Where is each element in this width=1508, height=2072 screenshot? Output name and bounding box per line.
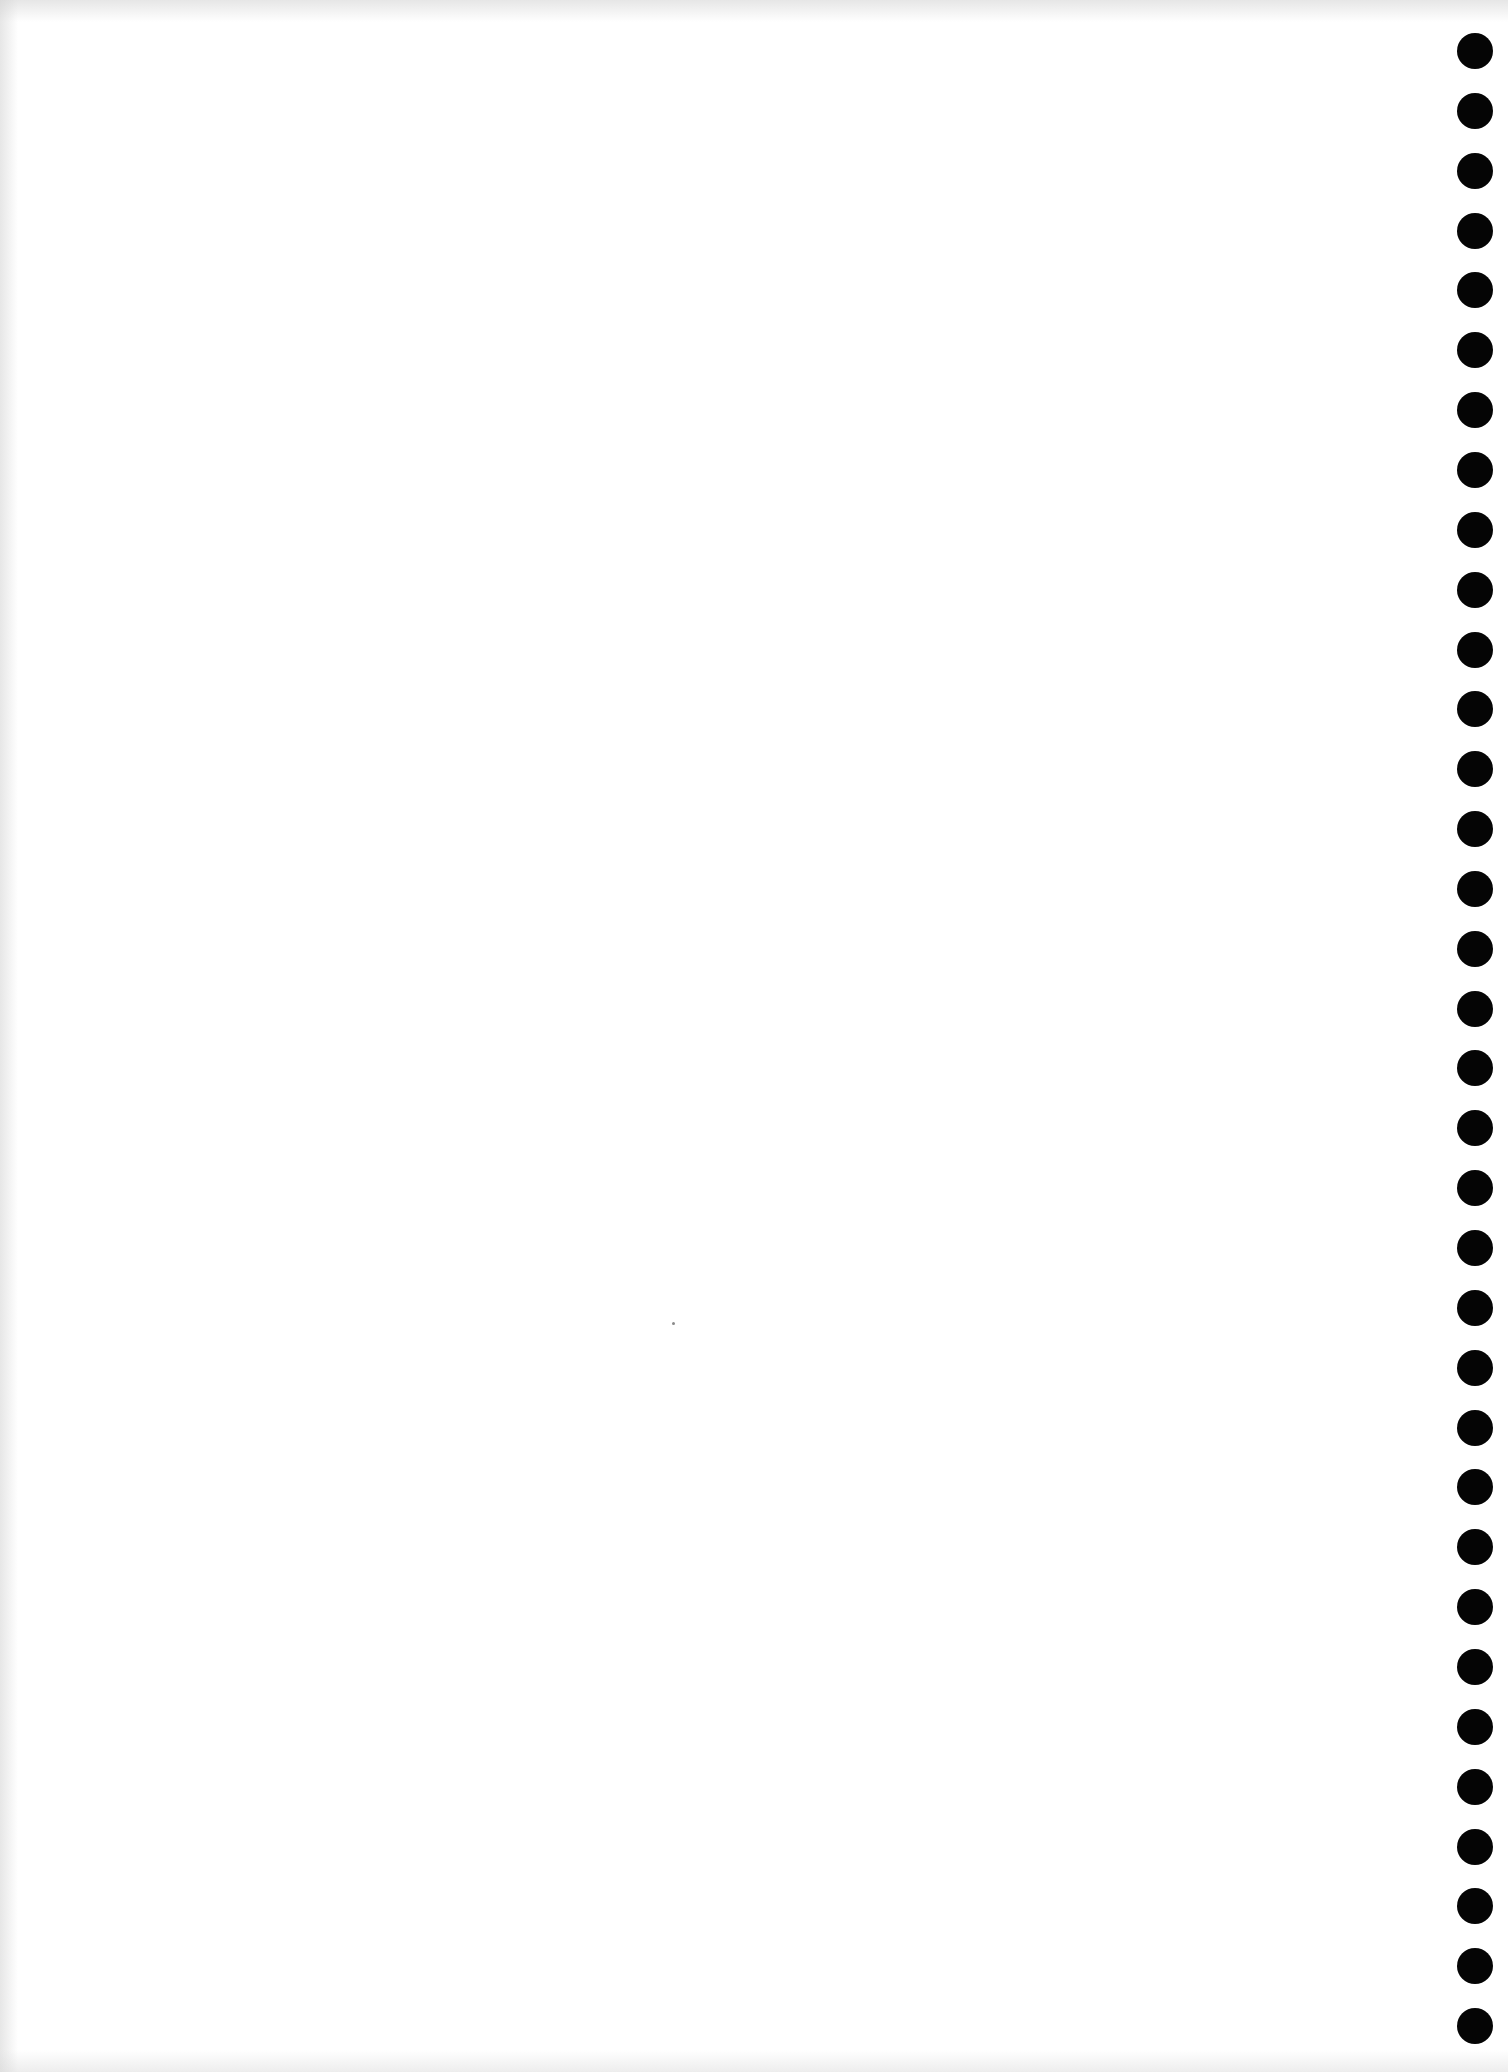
binding-hole-icon [1457, 1709, 1493, 1745]
binding-hole-icon [1457, 1230, 1493, 1266]
binding-hole-icon [1457, 871, 1493, 907]
binding-hole-icon [1457, 1888, 1493, 1924]
binding-hole-icon [1457, 1410, 1493, 1446]
binding-hole-icon [1457, 1769, 1493, 1805]
binding-hole-icon [1457, 392, 1493, 428]
binding-hole-icon [1457, 33, 1493, 69]
binding-hole-icon [1457, 1050, 1493, 1086]
binding-hole-icon [1457, 213, 1493, 249]
binding-hole-icon [1457, 931, 1493, 967]
binding-hole-icon [1457, 1350, 1493, 1386]
scan-shadow-top [0, 0, 1508, 22]
binding-hole-icon [1457, 272, 1493, 308]
binding-hole-icon [1457, 2008, 1493, 2044]
binding-hole-icon [1457, 1829, 1493, 1865]
blank-page [0, 0, 1508, 2072]
binding-hole-icon [1457, 1110, 1493, 1146]
binding-hole-column [1457, 0, 1497, 2072]
binding-hole-icon [1457, 1290, 1493, 1326]
scan-shadow-bottom [0, 2050, 1508, 2072]
binding-hole-icon [1457, 512, 1493, 548]
paper-speck [672, 1322, 675, 1325]
binding-hole-icon [1457, 1529, 1493, 1565]
scan-shadow-left [0, 0, 18, 2072]
binding-hole-icon [1457, 691, 1493, 727]
binding-hole-icon [1457, 751, 1493, 787]
binding-hole-icon [1457, 1589, 1493, 1625]
binding-hole-icon [1457, 991, 1493, 1027]
binding-hole-icon [1457, 1469, 1493, 1505]
binding-hole-icon [1457, 632, 1493, 668]
binding-hole-icon [1457, 572, 1493, 608]
binding-hole-icon [1457, 1948, 1493, 1984]
binding-hole-icon [1457, 1170, 1493, 1206]
binding-hole-icon [1457, 811, 1493, 847]
binding-hole-icon [1457, 332, 1493, 368]
binding-hole-icon [1457, 1649, 1493, 1685]
binding-hole-icon [1457, 153, 1493, 189]
binding-hole-icon [1457, 93, 1493, 129]
binding-hole-icon [1457, 452, 1493, 488]
